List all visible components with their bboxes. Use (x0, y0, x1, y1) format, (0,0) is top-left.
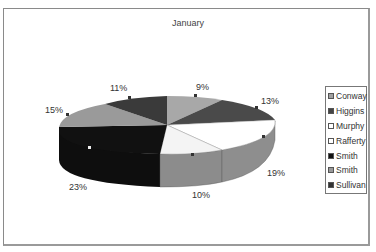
label-smith-1: 23% (69, 182, 87, 192)
legend-swatch (328, 182, 334, 188)
legend-item-murphy: Murphy (328, 119, 366, 134)
legend-swatch (328, 138, 334, 144)
legend-label: Sullivan (336, 180, 366, 190)
legend-label: Murphy (336, 121, 364, 131)
legend-label: Smith (336, 165, 358, 175)
legend-item-smith-1: Smith (328, 148, 366, 163)
label-conway: 9% (196, 82, 209, 92)
legend-label: Rafferty (336, 136, 366, 146)
legend-item-higgins: Higgins (328, 104, 366, 119)
legend-swatch (328, 93, 334, 99)
pie-top (59, 96, 275, 154)
legend-swatch (328, 153, 334, 159)
label-sullivan: 11% (110, 83, 127, 93)
legend-swatch (328, 123, 334, 129)
legend-swatch (328, 167, 334, 173)
legend-label: Higgins (336, 106, 364, 116)
label-higgins: 13% (261, 96, 279, 106)
legend-label: Smith (336, 151, 358, 161)
legend: Conway Higgins Murphy Rafferty Smith Smi… (325, 86, 367, 194)
legend-item-rafferty: Rafferty (328, 133, 366, 148)
legend-item-sullivan: Sullivan (328, 178, 366, 193)
label-rafferty: 10% (192, 190, 210, 200)
pie-chart (0, 0, 376, 252)
legend-item-smith-2: Smith (328, 163, 366, 178)
label-smith-2: 15% (45, 105, 63, 115)
label-murphy: 19% (267, 168, 285, 178)
legend-label: Conway (336, 91, 367, 101)
legend-item-conway: Conway (328, 89, 366, 104)
legend-swatch (328, 108, 334, 114)
